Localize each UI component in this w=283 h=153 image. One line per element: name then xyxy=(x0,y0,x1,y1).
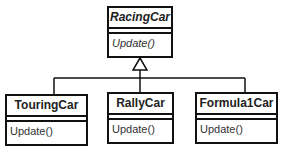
class-name: RallyCar xyxy=(109,94,172,115)
class-operation: Update() xyxy=(197,120,276,135)
class-racingcar[interactable]: RacingCar Update() xyxy=(107,6,173,58)
generalization-arrow-icon xyxy=(133,58,147,70)
class-operation: Update() xyxy=(109,120,172,135)
class-touringcar[interactable]: TouringCar Update() xyxy=(5,94,88,146)
class-name: RacingCar xyxy=(109,8,171,29)
class-name: Formula1Car xyxy=(197,94,276,115)
class-operation: Update() xyxy=(109,34,171,49)
class-operation: Update() xyxy=(7,122,86,137)
class-name: TouringCar xyxy=(7,96,86,117)
class-formula1car[interactable]: Formula1Car Update() xyxy=(195,92,278,144)
class-rallycar[interactable]: RallyCar Update() xyxy=(107,92,174,144)
